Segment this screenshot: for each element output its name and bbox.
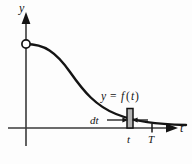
curve-label-close-paren: ) — [135, 90, 139, 103]
curve-start-open-circle-marker — [22, 40, 30, 48]
function-curve — [26, 44, 186, 125]
tick-label-T: T — [148, 133, 155, 145]
dt-label: dt — [90, 114, 100, 126]
y-axis-label: y — [18, 1, 25, 15]
area-strip-group — [127, 109, 133, 129]
figure-canvas: y t dt y = f ( t ) — [0, 0, 192, 164]
curve-label-y: y — [100, 90, 107, 103]
curve-label-open-paren: ( — [126, 90, 130, 103]
area-strip-rect — [127, 109, 133, 129]
curve-label-equals: = — [110, 90, 117, 102]
tick-label-t: t — [127, 133, 131, 145]
curve-label-group: y = f ( t ) — [100, 90, 139, 103]
math-figure-svg: y t dt y = f ( t ) — [0, 0, 192, 164]
t-axis-label: t — [180, 121, 184, 135]
